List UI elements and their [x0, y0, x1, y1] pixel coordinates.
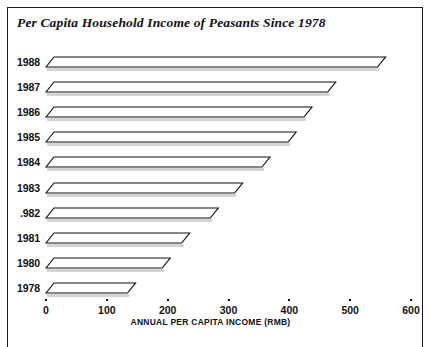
x-axis-tick-mark-100	[106, 299, 108, 301]
x-axis-tick-label-600: 600	[402, 304, 420, 316]
bar-shape-1982	[0, 208, 224, 224]
x-axis-tick-mark-300	[228, 299, 230, 301]
bar-face	[46, 157, 270, 167]
bar-shape-1987	[0, 82, 342, 98]
x-axis-tick-label-400: 400	[281, 304, 299, 316]
bar-shadow	[47, 68, 380, 71]
bar-shape-1988	[0, 57, 392, 73]
bar-shadow	[47, 294, 130, 297]
x-axis-tick-label-100: 100	[98, 304, 116, 316]
bar-face	[46, 107, 312, 117]
bar-face	[46, 283, 136, 293]
bar-shape-1980	[0, 258, 176, 274]
x-axis-tick-label-200: 200	[159, 304, 177, 316]
bar-face	[46, 132, 296, 142]
bar-face	[46, 57, 386, 67]
bar-face	[46, 208, 218, 218]
bar-shadow	[47, 118, 306, 121]
x-axis-title-text: ANNUAL PER CAPITA INCOME (RMB)	[131, 317, 291, 327]
bar-face	[46, 258, 170, 268]
bar-shadow	[47, 269, 164, 272]
bar-shape-1981	[0, 233, 196, 249]
x-axis-tick-mark-500	[349, 299, 351, 301]
x-axis-tick-mark-600	[410, 299, 412, 301]
bar-face	[46, 82, 336, 92]
x-axis-tick-mark-200	[167, 299, 169, 301]
bar-shape-1986	[0, 107, 318, 123]
bar-shape-1985	[0, 132, 302, 148]
bar-shape-1978	[0, 283, 142, 299]
x-axis-tick-label-500: 500	[341, 304, 359, 316]
x-axis-tick-mark-0	[45, 299, 47, 301]
bar-shape-1983	[0, 183, 249, 199]
bar-face	[46, 233, 190, 243]
bar-shadow	[47, 194, 237, 197]
bar-shape-1984	[0, 157, 276, 173]
bar-shadow	[47, 244, 184, 247]
bar-shadow	[47, 93, 330, 96]
x-axis-tick-mark-400	[288, 299, 290, 301]
x-axis-tick-label-0: 0	[43, 304, 49, 316]
bar-face	[46, 183, 243, 193]
x-axis-title: ANNUAL PER CAPITA INCOME (RMB)	[0, 317, 431, 327]
bar-shadow	[47, 219, 212, 222]
bar-shadow	[47, 168, 264, 171]
x-axis-tick-label-300: 300	[220, 304, 238, 316]
bar-shadow	[47, 143, 290, 146]
